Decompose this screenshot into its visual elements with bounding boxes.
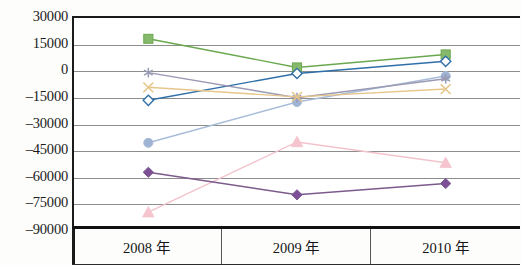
series-pink-triangle [143, 136, 452, 217]
y-axis-tick-label: –30000 [26, 114, 68, 131]
y-axis-tick-label: –45000 [26, 141, 68, 158]
series-purple-diamond [143, 167, 451, 200]
series-green-square [144, 34, 450, 72]
data-point-marker [440, 178, 450, 188]
data-point-marker [291, 136, 303, 146]
y-axis-tick-label: 15000 [33, 34, 68, 51]
x-axis-category-label: 2009 年 [222, 229, 372, 264]
y-axis-tick-label: 0 [61, 61, 68, 78]
data-point-marker [292, 190, 302, 200]
y-axis-tick-label: –90000 [26, 221, 68, 238]
series-line [148, 76, 445, 143]
data-point-marker [143, 167, 153, 177]
y-axis-tick-label: 30000 [33, 8, 68, 25]
series-line [148, 142, 445, 212]
y-axis: 30000150000–15000–30000–45000–60000–7500… [0, 0, 72, 250]
plot-area [72, 16, 520, 229]
line-chart: 30000150000–15000–30000–45000–60000–7500… [0, 0, 522, 265]
y-axis-tick-label: –75000 [26, 194, 68, 211]
x-axis: 2008 年2009 年2010 年 [72, 229, 520, 265]
data-point-marker [144, 138, 153, 147]
y-axis-tick-label: –60000 [26, 167, 68, 184]
x-axis-category-label: 2008 年 [72, 229, 222, 264]
data-point-marker [143, 95, 153, 105]
series-layer [74, 18, 520, 226]
data-point-marker [143, 206, 155, 216]
y-axis-tick-label: –15000 [26, 87, 68, 104]
data-point-marker [144, 34, 153, 43]
x-axis-category-label: 2010 年 [371, 229, 520, 264]
